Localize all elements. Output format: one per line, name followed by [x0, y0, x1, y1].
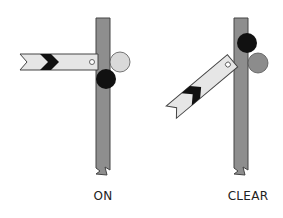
light-upper-icon: [237, 33, 257, 53]
light-lower-icon: [96, 69, 116, 89]
label-clear: CLEAR: [228, 189, 269, 203]
signal-on: [20, 18, 130, 175]
semaphore-arm-raised: [166, 55, 238, 119]
signal-clear: [166, 18, 268, 175]
signal-post: [96, 18, 110, 175]
semaphore-diagram: [0, 0, 283, 218]
pivot-icon: [90, 60, 95, 65]
light-lower-icon: [248, 53, 268, 73]
light-upper-icon: [110, 52, 130, 72]
label-on: ON: [93, 189, 112, 203]
semaphore-arm-horizontal: [20, 54, 98, 70]
